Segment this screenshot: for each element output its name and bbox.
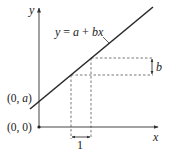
x-axis-label: x xyxy=(152,130,159,144)
origin-label: (0, 0) xyxy=(7,121,32,134)
equation-label: y = a + bx xyxy=(54,25,104,39)
intercept-label: (0, a) xyxy=(7,92,32,105)
linear-function-diagram: y x y = a + bx (0, a) (0, 0) b 1 xyxy=(0,0,169,151)
label-leader-line xyxy=(103,37,109,43)
run-label: 1 xyxy=(77,138,83,151)
rise-label: b xyxy=(156,60,162,74)
y-axis-label: y xyxy=(28,3,35,17)
origin-point xyxy=(37,125,40,128)
function-line xyxy=(30,7,153,109)
